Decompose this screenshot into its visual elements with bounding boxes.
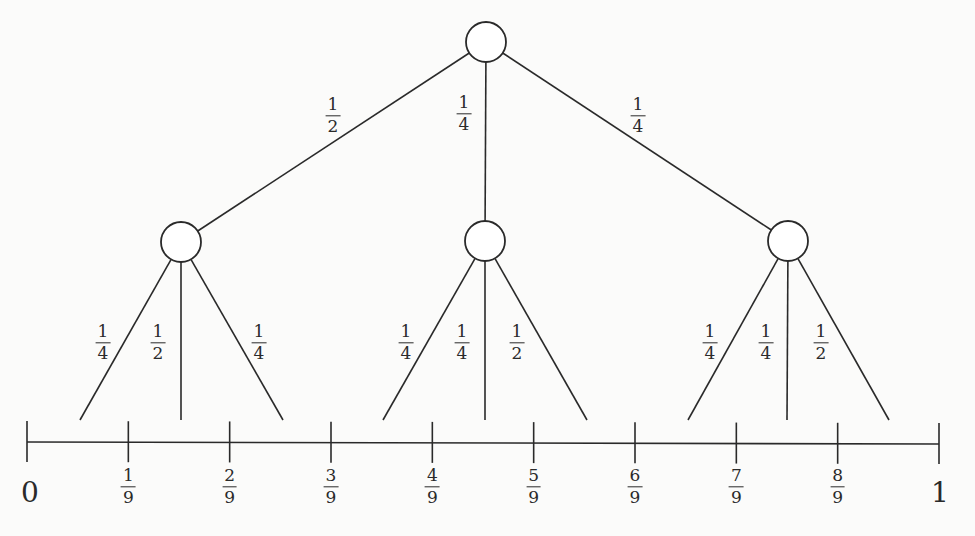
denominator: 2 <box>510 344 525 363</box>
edge-label-middle-2: 1 4 <box>455 323 470 362</box>
denominator: 9 <box>121 488 136 507</box>
edge-label-left-1: 1 4 <box>96 323 111 362</box>
denominator: 9 <box>729 488 744 507</box>
tick-label-2: 29 <box>222 467 237 506</box>
number-line <box>27 442 939 444</box>
denominator: 4 <box>457 115 472 134</box>
denominator: 4 <box>399 344 414 363</box>
edge-label-middle-3: 1 2 <box>510 323 525 362</box>
edge-label-root-right: 1 4 <box>631 96 646 135</box>
denominator: 2 <box>151 344 166 363</box>
edge-label-root-middle: 1 4 <box>457 94 472 133</box>
tick-label-5: 59 <box>526 467 541 506</box>
root-node <box>466 22 506 62</box>
numerator: 8 <box>830 467 845 486</box>
numerator: 7 <box>729 467 744 486</box>
denominator: 4 <box>759 344 774 363</box>
tick-label-6: 69 <box>628 467 643 506</box>
node-left <box>161 222 201 262</box>
edge-right-leaf-2 <box>787 261 788 420</box>
numerator: 1 <box>631 96 646 115</box>
numerator: 1 <box>252 323 267 342</box>
numerator: 1 <box>96 323 111 342</box>
tree-canvas <box>0 0 975 536</box>
tick-label-7: 79 <box>729 467 744 506</box>
numerator: 1 <box>399 323 414 342</box>
tick-label-1: 19 <box>121 467 136 506</box>
denominator: 9 <box>830 488 845 507</box>
number-line-end-label: 1 <box>931 479 949 507</box>
numerator: 1 <box>326 96 341 115</box>
numerator: 1 <box>455 323 470 342</box>
denominator: 4 <box>252 344 267 363</box>
denominator: 4 <box>631 117 646 136</box>
tick-label-8: 89 <box>830 467 845 506</box>
numerator: 1 <box>457 94 472 113</box>
edge-label-right-1: 1 4 <box>703 323 718 362</box>
number-line-start-label: 0 <box>21 479 39 507</box>
numerator: 1 <box>151 323 166 342</box>
edge-label-root-left: 1 2 <box>326 96 341 135</box>
denominator: 4 <box>455 344 470 363</box>
edge-label-middle-1: 1 4 <box>399 323 414 362</box>
denominator: 4 <box>703 344 718 363</box>
numerator: 5 <box>526 467 541 486</box>
denominator: 4 <box>96 344 111 363</box>
denominator: 9 <box>628 488 643 507</box>
tick-label-3: 39 <box>324 467 339 506</box>
denominator: 9 <box>222 488 237 507</box>
numerator: 3 <box>324 467 339 486</box>
denominator: 2 <box>814 344 829 363</box>
numerator: 1 <box>814 323 829 342</box>
edge-left-leaf-3 <box>191 259 283 420</box>
probability-tree-diagram: 1 2 1 4 1 4 1 4 1 2 1 4 1 4 1 4 1 <box>0 0 975 536</box>
denominator: 9 <box>526 488 541 507</box>
node-right <box>768 221 808 261</box>
edge-root-middle <box>485 62 486 221</box>
numerator: 6 <box>628 467 643 486</box>
denominator: 9 <box>324 488 339 507</box>
numerator: 1 <box>121 467 136 486</box>
edge-label-left-2: 1 2 <box>151 323 166 362</box>
denominator: 9 <box>425 488 440 507</box>
numerator: 1 <box>510 323 525 342</box>
edge-label-right-3: 1 2 <box>814 323 829 362</box>
numerator: 1 <box>703 323 718 342</box>
denominator: 2 <box>326 117 341 136</box>
edge-right-leaf-3 <box>798 258 889 420</box>
edge-label-left-3: 1 4 <box>252 323 267 362</box>
edge-label-right-2: 1 4 <box>759 323 774 362</box>
tick-label-4: 49 <box>425 467 440 506</box>
edge-root-left <box>198 53 470 231</box>
node-middle <box>465 221 505 261</box>
numerator: 1 <box>759 323 774 342</box>
numerator: 4 <box>425 467 440 486</box>
numerator: 2 <box>222 467 237 486</box>
edge-root-right <box>503 53 772 230</box>
